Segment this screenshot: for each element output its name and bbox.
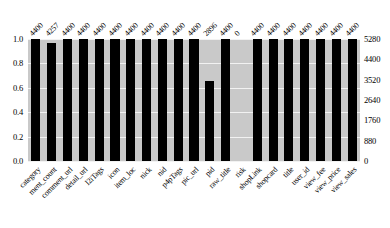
- bar-slot: [234, 39, 250, 161]
- bar: [189, 39, 198, 161]
- x-axis-label-slot: view_price: [328, 163, 344, 228]
- bar-slot: [313, 39, 329, 161]
- x-axis-label-slot: icon: [107, 163, 123, 228]
- bar: [300, 39, 309, 161]
- x-axis-label-slot: risk: [234, 163, 250, 228]
- plot-area: [28, 39, 360, 161]
- bar-value-label: 4400: [91, 21, 108, 38]
- bar-value-label: 4400: [154, 21, 171, 38]
- bar-value-label-slot: 4400: [107, 0, 123, 39]
- bar-slot: [186, 39, 202, 161]
- bar-value-label-slot: 4400: [60, 0, 76, 39]
- bar: [221, 39, 230, 161]
- y-axis-left: 1.00.80.60.40.20.0: [0, 39, 26, 161]
- bar-value-label: 4400: [170, 21, 187, 38]
- x-axis-label-slot: pic_url: [186, 163, 202, 228]
- bar-slot: [107, 39, 123, 161]
- x-axis-label-slot: nick: [139, 163, 155, 228]
- bar-slot: [139, 39, 155, 161]
- bar-value-label: 4400: [75, 21, 92, 38]
- bar-value-label: 4400: [107, 21, 124, 38]
- x-axis-label-slot: user_id: [297, 163, 313, 228]
- y-axis-left-tick: 0.6: [13, 83, 23, 93]
- y-axis-left-tick: 0.0: [13, 156, 23, 166]
- bar-value-label-slot: 4400: [297, 0, 313, 39]
- bar-slot: [249, 39, 265, 161]
- x-axis-label-slot: p4pTags: [170, 163, 186, 228]
- bar-value-label: 4400: [186, 21, 203, 38]
- bar-slot: [344, 39, 360, 161]
- y-axis-right-tick: 880: [364, 136, 376, 146]
- bar-value-label: 4257: [43, 21, 60, 38]
- bar-slot: [155, 39, 171, 161]
- bar-slot: [91, 39, 107, 161]
- bar-value-label-slot: 4400: [249, 0, 265, 39]
- y-axis-left-tick: 0.4: [13, 107, 23, 117]
- bar-slot: [75, 39, 91, 161]
- bar-value-label: 2896: [201, 21, 218, 38]
- bar-slot: [28, 39, 44, 161]
- bar-value-label: 4400: [59, 21, 76, 38]
- bar-value-label: 4400: [296, 21, 313, 38]
- bar-value-label: 4400: [281, 21, 298, 38]
- bar: [126, 39, 135, 161]
- bar-slot: [281, 39, 297, 161]
- bar-value-label-slot: 4400: [218, 0, 234, 39]
- bar-value-label-slot: 4400: [328, 0, 344, 39]
- y-axis-left-tick: 0.8: [13, 58, 23, 68]
- bar: [205, 81, 214, 161]
- bar: [31, 39, 40, 161]
- bar-slot: [328, 39, 344, 161]
- bar-value-label-slot: 4400: [281, 0, 297, 39]
- x-axis-label-slot: pid: [202, 163, 218, 228]
- x-axis-label: nick: [137, 165, 153, 181]
- x-axis-label-slot: l2iTags: [91, 163, 107, 228]
- x-axis-labels: categoryment_countcomment_urldetail_urll…: [28, 163, 360, 228]
- x-axis-label-slot: view_fee: [313, 163, 329, 228]
- bar-value-label-slot: 4400: [265, 0, 281, 39]
- bar-value-label: 4400: [265, 21, 282, 38]
- bar-value-label-slot: 4400: [155, 0, 171, 39]
- x-axis-label-slot: nid: [155, 163, 171, 228]
- y-axis-right-tick: 2640: [364, 95, 380, 105]
- bar: [348, 39, 357, 161]
- bar-slot: [123, 39, 139, 161]
- bar: [284, 39, 293, 161]
- x-axis-label-slot: item_loc: [123, 163, 139, 228]
- x-axis-label-slot: view_sales: [344, 163, 360, 228]
- bar: [142, 39, 151, 161]
- bar: [47, 43, 56, 161]
- x-axis-label-slot: shopLink: [249, 163, 265, 228]
- bar: [332, 39, 341, 161]
- bar-value-label-slot: 4400: [344, 0, 360, 39]
- y-axis-right: 528044003520264017608800: [362, 39, 390, 161]
- y-axis-left-tick: 0.2: [13, 132, 23, 142]
- bar-value-label-slot: 4400: [186, 0, 202, 39]
- bar: [269, 39, 278, 161]
- x-axis-label-slot: raw_title: [218, 163, 234, 228]
- x-axis-label-slot: title: [281, 163, 297, 228]
- bar-slot: [170, 39, 186, 161]
- bar-slot: [202, 39, 218, 161]
- bar-value-label: 4400: [28, 21, 45, 38]
- bar: [253, 39, 262, 161]
- x-axis-label-slot: detail_url: [75, 163, 91, 228]
- x-axis-label-slot: shopcard: [265, 163, 281, 228]
- bar-value-label-slot: 4400: [91, 0, 107, 39]
- y-axis-right-tick: 0: [364, 156, 368, 166]
- y-axis-right-tick: 4400: [364, 54, 380, 64]
- bar-value-labels: 4400425744004400440044004400440044004400…: [28, 0, 360, 39]
- bar-slot: [44, 39, 60, 161]
- bar-value-label-slot: 2896: [202, 0, 218, 39]
- y-axis-left-tick: 1.0: [13, 34, 23, 44]
- chart-figure: 4400425744004400440044004400440044004400…: [0, 0, 390, 228]
- bar-slot: [265, 39, 281, 161]
- bar: [79, 39, 88, 161]
- bar-slot: [297, 39, 313, 161]
- y-axis-right-tick: 3520: [364, 75, 380, 85]
- bar-value-label-slot: 4400: [75, 0, 91, 39]
- bar-value-label-slot: 4257: [44, 0, 60, 39]
- bar: [158, 39, 167, 161]
- bar-value-label: 4400: [138, 21, 155, 38]
- bar-value-label-slot: 4400: [170, 0, 186, 39]
